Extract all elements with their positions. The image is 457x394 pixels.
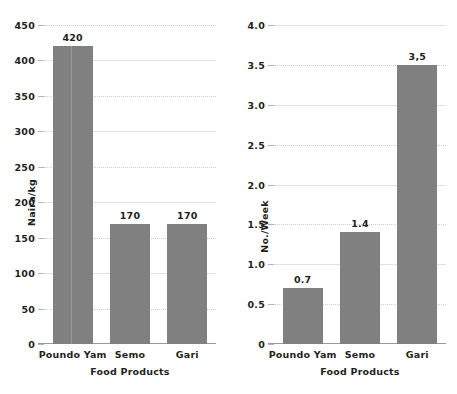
- bar: 170: [110, 224, 150, 345]
- gridline: [274, 25, 446, 26]
- bar-value-label: 170: [120, 210, 140, 221]
- gridline: [44, 25, 216, 26]
- y-tick-label: 2.5: [248, 139, 265, 150]
- y-tick-mark: [38, 131, 44, 132]
- bar-value-label: 3,5: [409, 51, 426, 62]
- y-tick-label: 450: [15, 20, 35, 31]
- y-tick-mark: [38, 202, 44, 203]
- y-tick-mark: [38, 25, 44, 26]
- y-tick-label: 0.5: [248, 299, 265, 310]
- y-tick-label: 0: [28, 339, 35, 350]
- y-tick-mark: [38, 238, 44, 239]
- y-tick-label: 2.0: [248, 179, 265, 190]
- bar: 3,5: [397, 65, 437, 344]
- chart-panel-left: Naira/kg Food Products 05010015020025030…: [0, 0, 228, 394]
- bar: 0.7: [283, 288, 323, 344]
- y-tick-mark: [268, 224, 274, 225]
- y-tick-label: 0: [258, 339, 265, 350]
- plot-area-left: Naira/kg Food Products 05010015020025030…: [44, 25, 216, 344]
- x-tick-label: Gari: [406, 349, 429, 360]
- x-tick-label: Semo: [345, 349, 376, 360]
- y-tick-mark: [38, 60, 44, 61]
- y-tick-label: 1.5: [248, 219, 265, 230]
- y-tick-label: 400: [15, 55, 35, 66]
- y-tick-mark: [38, 309, 44, 310]
- y-tick-mark: [268, 145, 274, 146]
- bar-value-label: 420: [62, 32, 82, 43]
- y-tick-mark: [268, 304, 274, 305]
- chart-panel-right: No./Week Food Products 00.51.01.52.02.53…: [228, 0, 457, 394]
- bar-value-label: 0.7: [294, 274, 311, 285]
- y-tick-label: 300: [15, 126, 35, 137]
- y-tick-label: 3.0: [248, 99, 265, 110]
- y-tick-mark: [268, 264, 274, 265]
- y-tick-label: 250: [15, 161, 35, 172]
- bar-value-label: 1.4: [351, 218, 368, 229]
- y-tick-label: 50: [21, 303, 35, 314]
- x-tick-label: Semo: [115, 349, 146, 360]
- y-tick-mark: [38, 344, 44, 345]
- bar: 1.4: [340, 232, 380, 344]
- x-tick-label: Gari: [176, 349, 199, 360]
- x-axis-title-right: Food Products: [320, 366, 399, 377]
- y-tick-mark: [38, 96, 44, 97]
- bar: 420: [53, 46, 93, 344]
- y-tick-label: 150: [15, 232, 35, 243]
- y-tick-mark: [268, 105, 274, 106]
- y-tick-mark: [268, 25, 274, 26]
- x-axis-title-left: Food Products: [90, 366, 169, 377]
- y-tick-label: 200: [15, 197, 35, 208]
- y-tick-mark: [38, 273, 44, 274]
- plot-area-right: No./Week Food Products 00.51.01.52.02.53…: [274, 25, 446, 344]
- y-tick-label: 1.0: [248, 259, 265, 270]
- x-tick-label: Poundo Yam: [39, 349, 107, 360]
- y-tick-mark: [268, 344, 274, 345]
- y-tick-mark: [38, 167, 44, 168]
- figure: Naira/kg Food Products 05010015020025030…: [0, 0, 457, 394]
- y-tick-label: 4.0: [248, 20, 265, 31]
- y-tick-mark: [268, 65, 274, 66]
- bar-value-label: 170: [177, 210, 197, 221]
- y-tick-label: 3.5: [248, 59, 265, 70]
- y-tick-mark: [268, 185, 274, 186]
- y-tick-label: 100: [15, 268, 35, 279]
- bar: 170: [167, 224, 207, 345]
- x-tick-label: Poundo Yam: [269, 349, 337, 360]
- y-tick-label: 350: [15, 90, 35, 101]
